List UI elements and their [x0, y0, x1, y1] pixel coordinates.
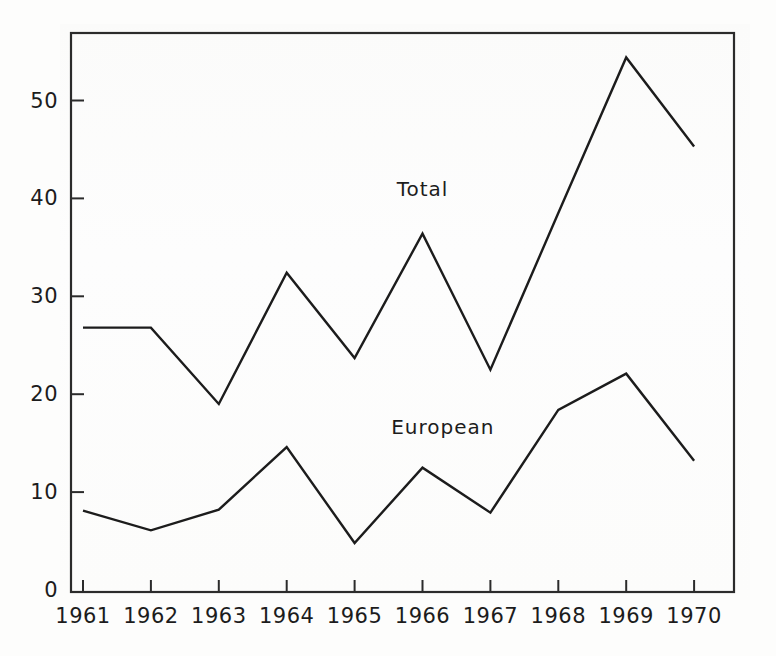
chart-plot-area	[0, 0, 776, 656]
x-axis-tick-label: 1963	[191, 604, 246, 628]
series-line-european	[83, 374, 694, 543]
chart-figure: 0102030405019611962196319641965196619671…	[0, 0, 776, 656]
x-axis-tick-label: 1966	[395, 604, 450, 628]
x-axis-tick-label: 1970	[666, 604, 721, 628]
x-axis-tick-label: 1967	[463, 604, 518, 628]
series-line-total	[83, 57, 694, 404]
y-axis-tick-label: 0	[14, 578, 58, 602]
plot-frame	[71, 33, 734, 592]
y-axis-tick-label: 30	[14, 284, 58, 308]
x-axis-ticks	[83, 580, 694, 592]
x-axis-tick-label: 1964	[259, 604, 314, 628]
series-annotation-european: European	[391, 415, 494, 439]
y-axis-tick-label: 10	[14, 480, 58, 504]
x-axis-tick-label: 1961	[55, 604, 110, 628]
y-axis-tick-label: 20	[14, 382, 58, 406]
y-axis-tick-label: 50	[14, 89, 58, 113]
x-axis-tick-label: 1969	[598, 604, 653, 628]
x-axis-tick-label: 1968	[531, 604, 586, 628]
x-axis-tick-label: 1962	[123, 604, 178, 628]
y-axis-ticks	[71, 101, 84, 493]
x-axis-tick-label: 1965	[327, 604, 382, 628]
y-axis-tick-label: 40	[14, 186, 58, 210]
series-annotation-total: Total	[397, 177, 449, 201]
